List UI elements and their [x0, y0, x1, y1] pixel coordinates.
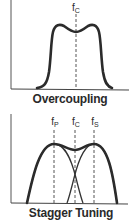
fc-label: fC [72, 3, 80, 16]
diagram-canvas [0, 0, 132, 224]
overcoupling-title: Overcoupling [33, 92, 108, 106]
fc-label: fC [72, 117, 80, 130]
overcoupling-curve [37, 25, 112, 88]
stagger-tuning-title: Stagger Tuning [29, 206, 113, 220]
x-axis [11, 203, 128, 204]
fp-label: fP [51, 117, 58, 130]
fs-label: fS [91, 117, 98, 130]
stagger-tuning-plot [11, 114, 128, 204]
overcoupling-plot [11, 0, 129, 90]
combined-response-curve [27, 144, 117, 203]
